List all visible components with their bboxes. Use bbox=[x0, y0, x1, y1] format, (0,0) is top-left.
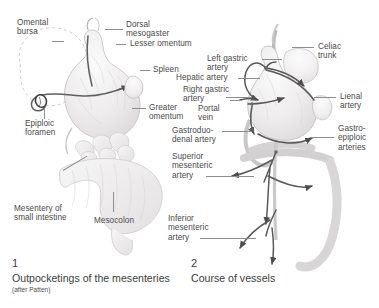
leader-gastroduodenal-artery bbox=[222, 131, 252, 132]
panel2-caption-title: Course of vessels bbox=[191, 272, 275, 284]
label-lienal-artery: Lienal artery bbox=[340, 92, 362, 111]
leader-left-gastric-artery bbox=[262, 59, 282, 60]
label-gastroepiploic-arteries: Gastro- epiploic arteries bbox=[338, 124, 366, 152]
leader-greater-omentum bbox=[132, 108, 146, 109]
label-spleen: Spleen bbox=[153, 65, 179, 74]
label-mesentery-small-intestine: Mesentery of small intestine bbox=[14, 204, 67, 223]
label-portal-vein: Portal vein bbox=[198, 104, 220, 123]
label-lesser-omentum: Lesser omentum bbox=[130, 39, 192, 48]
label-gastroduodenal-artery: Gastroduo- denal artery bbox=[172, 126, 216, 145]
panel1-caption-subtitle: (after Patten) bbox=[12, 286, 50, 293]
leader-epiploic-foramen bbox=[44, 108, 45, 119]
leader-hepatic-artery bbox=[238, 78, 260, 79]
label-epiploic-foramen: Epiploic foramen bbox=[25, 119, 55, 138]
panel1-caption-number: 1 bbox=[12, 257, 18, 269]
spleen-shape bbox=[125, 76, 143, 98]
leader-right-gastric-artery bbox=[226, 97, 252, 98]
leader-superior-mesenteric-artery bbox=[206, 176, 254, 177]
leader-dorsal-mesogaster bbox=[105, 29, 123, 30]
leader-omental-bursa bbox=[52, 41, 64, 42]
label-inferior-mesenteric-artery: Inferior mesenteric artery bbox=[168, 214, 209, 242]
label-mesocolon: Mesocolon bbox=[94, 216, 134, 225]
label-left-gastric-artery: Left gastric artery bbox=[207, 54, 248, 73]
leader-lienal-artery bbox=[314, 97, 336, 98]
transverse-colon bbox=[244, 152, 330, 160]
label-dorsal-mesogaster: Dorsal mesogaster bbox=[126, 20, 169, 39]
panel1-caption-title: Outpocketings of the mesenteries bbox=[12, 272, 170, 284]
anatomy-figure-page: Omental bursa Dorsal mesogaster Lesser o… bbox=[0, 0, 379, 308]
label-superior-mesenteric-artery: Superior mesenteric artery bbox=[172, 152, 213, 180]
label-hepatic-artery: Hepatic artery bbox=[176, 73, 228, 82]
epiploic-foramen-marker bbox=[34, 93, 49, 109]
label-right-gastric-artery: Right gastric artery bbox=[183, 85, 229, 104]
leader-lesser-omentum bbox=[116, 44, 126, 45]
leader-portal-vein bbox=[230, 100, 242, 101]
label-celiac-trunk: Celiac trunk bbox=[318, 42, 341, 61]
panel2-caption-number: 2 bbox=[191, 257, 197, 269]
label-greater-omentum: Greater omentum bbox=[149, 103, 183, 122]
leader-spleen bbox=[140, 70, 150, 71]
leader-mesocolon bbox=[113, 192, 114, 212]
spleen-shape-panel2 bbox=[312, 96, 331, 120]
label-omental-bursa: Omental bursa bbox=[17, 18, 48, 37]
leader-celiac-trunk bbox=[292, 47, 314, 48]
leader-gastroepiploic-arteries bbox=[310, 137, 334, 138]
